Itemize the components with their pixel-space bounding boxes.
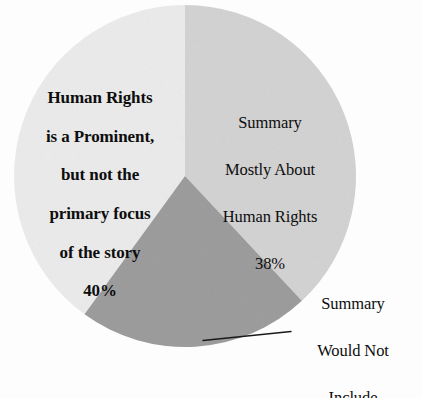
slice-label-would-not-include-line-2: Would Not	[286, 339, 420, 363]
slice-label-prominent: Human Rights is a Prominent, but not the…	[16, 69, 184, 320]
pie-chart-figure: Human Rights is a Prominent, but not the…	[0, 0, 422, 398]
slice-label-prominent-line-1: Human Rights	[16, 88, 184, 107]
slice-label-mostly-about-line-2: Mostly About	[196, 158, 344, 182]
slice-label-prominent-line-3: but not the	[16, 165, 184, 184]
slice-label-prominent-line-4: primary focus	[16, 204, 184, 223]
slice-label-prominent-line-5: of the story	[16, 243, 184, 262]
slice-label-mostly-about-line-1: Summary	[196, 111, 344, 135]
slice-label-would-not-include: Summary Would Not Include Human Rights 2…	[286, 268, 420, 398]
slice-label-mostly-about-line-3: Human Rights	[196, 205, 344, 229]
slice-label-mostly-about: Summary Mostly About Human Rights 38%	[196, 87, 344, 299]
slice-label-would-not-include-line-1: Summary	[286, 292, 420, 316]
slice-label-prominent-line-2: is a Prominent,	[16, 127, 184, 146]
slice-label-would-not-include-line-3: Include	[286, 386, 420, 398]
slice-value-prominent: 40%	[16, 281, 184, 300]
